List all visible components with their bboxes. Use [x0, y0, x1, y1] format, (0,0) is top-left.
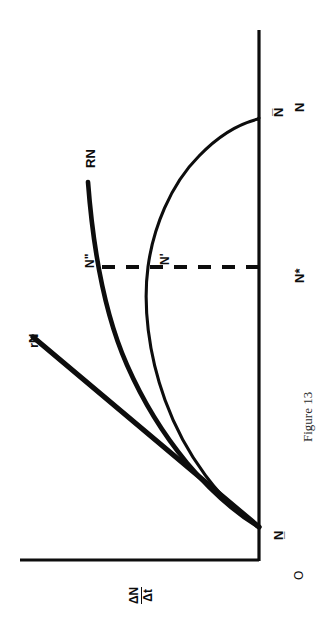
- curve-inner-axis-contact: [258, 118, 259, 119]
- marker-label-n-upper: N̅: [272, 108, 285, 117]
- figure-caption: Figure 13: [301, 392, 314, 442]
- marker-label-n-double-prime: Nʺ: [84, 254, 96, 268]
- marker-label-n-lower: N̲: [272, 531, 285, 540]
- rate-numerator: ΔN: [128, 587, 141, 604]
- rate-fraction: ΔN Δt: [128, 587, 154, 604]
- curve-label-rN: rN: [27, 334, 40, 348]
- rate-denominator: Δt: [141, 587, 155, 604]
- curve-RN: [88, 182, 259, 527]
- axis-label-n: N: [293, 103, 306, 112]
- axis-lines: [20, 30, 259, 561]
- axis-label-rate: ΔN Δt: [128, 587, 154, 604]
- curve-label-RN: RN: [84, 149, 97, 168]
- figure-page: N N̅ N* Nʹ Nʺ RN rN N̲ O ΔN Δt Figure 13: [0, 0, 323, 625]
- marker-label-n-prime: Nʹ: [159, 253, 171, 265]
- curve-inner: [146, 119, 259, 527]
- marker-label-n-star: N*: [293, 269, 306, 283]
- origin-label: O: [293, 571, 305, 580]
